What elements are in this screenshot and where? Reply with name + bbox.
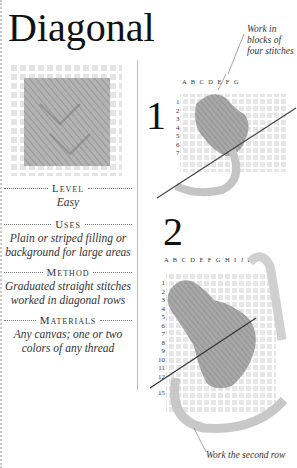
stitch-illustrations (0, 0, 297, 468)
